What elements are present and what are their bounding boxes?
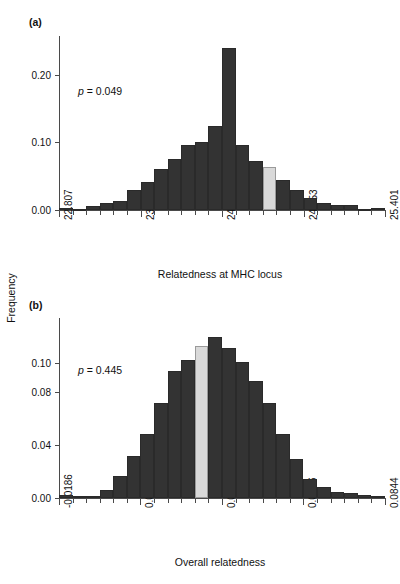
histogram-bar <box>168 371 181 498</box>
x-axis-minor-tick <box>195 499 196 503</box>
x-axis-tick <box>304 211 305 217</box>
x-axis-minor-tick <box>344 211 345 215</box>
histogram-bar <box>59 208 73 210</box>
y-axis-tick <box>55 445 59 446</box>
histogram-bar <box>304 198 317 210</box>
x-axis-minor-tick <box>181 211 182 215</box>
x-axis-minor-tick <box>276 211 277 215</box>
histogram-bar <box>154 403 168 498</box>
x-axis-minor-tick <box>127 211 128 215</box>
x-axis-minor-tick <box>331 499 332 503</box>
histogram-bar <box>73 209 86 211</box>
x-axis-minor-tick <box>100 211 101 215</box>
histogram-bar <box>358 495 371 498</box>
histogram-bar <box>249 161 263 210</box>
histogram-bar <box>181 145 195 210</box>
x-axis-minor-tick <box>371 499 372 503</box>
histogram-bar <box>168 159 181 210</box>
y-axis-line <box>59 318 60 498</box>
histogram-bar <box>140 434 154 498</box>
x-axis-tick <box>222 211 223 217</box>
histogram-bar-observed <box>263 167 276 210</box>
panel-a-plot-area: 0.000.100.2022.80723.45624.10424.75325.4… <box>0 0 396 292</box>
histogram-bar <box>113 201 127 210</box>
x-axis-minor-tick <box>290 499 291 503</box>
histogram-bar <box>263 403 276 498</box>
x-axis-tick-label: 0.0844 <box>389 477 400 508</box>
y-axis-tick-label: 0.08 <box>13 387 51 398</box>
x-axis-minor-tick <box>290 211 291 215</box>
x-axis-tick-label: 22.807 <box>63 189 74 220</box>
x-axis-minor-tick <box>168 499 169 503</box>
y-axis-tick <box>55 392 59 393</box>
histogram-bar <box>222 348 236 498</box>
y-axis-tick <box>55 75 59 76</box>
x-axis-minor-tick <box>331 211 332 215</box>
y-axis-tick-label: 0.10 <box>13 358 51 369</box>
x-axis-minor-tick <box>263 211 264 215</box>
histogram-bar <box>290 190 304 210</box>
x-axis-tick <box>140 499 141 505</box>
x-axis-tick-label: 25.401 <box>389 189 400 220</box>
x-axis-minor-tick <box>100 499 101 503</box>
histogram-bar <box>195 142 208 210</box>
histogram-bar <box>100 203 113 210</box>
x-axis-minor-tick <box>249 211 250 215</box>
y-axis-tick <box>55 142 59 143</box>
histogram-bar <box>331 492 344 498</box>
histogram-bar <box>249 381 263 498</box>
panel-b-x-axis-title: Overall relatedness <box>60 556 380 568</box>
x-axis-minor-tick <box>86 211 87 215</box>
histogram-bar <box>208 337 222 498</box>
histogram-bar <box>317 203 331 210</box>
histogram-bar <box>344 205 358 210</box>
histogram-bar <box>236 362 249 498</box>
x-axis-minor-tick <box>113 211 114 215</box>
x-axis-minor-tick <box>168 211 169 215</box>
histogram-bar <box>113 476 127 498</box>
histogram-bar <box>208 126 222 210</box>
y-axis-tick-label: 0.20 <box>13 70 51 81</box>
y-axis-tick-label: 0.04 <box>13 440 51 451</box>
histogram-bar <box>154 169 168 210</box>
histogram-bar <box>59 495 73 498</box>
histogram-bar <box>317 487 331 498</box>
y-axis-tick-label: 0.10 <box>13 137 51 148</box>
histogram-bar <box>86 496 100 498</box>
histogram-bar <box>127 456 140 498</box>
histogram-bar <box>371 208 385 210</box>
histogram-bar <box>181 360 195 498</box>
histogram-bar <box>127 190 141 210</box>
panel-a: (a) p = 0.049 0.000.100.2022.80723.45624… <box>0 0 396 292</box>
histogram-bar <box>86 206 100 210</box>
x-axis-minor-tick <box>208 499 209 503</box>
histogram-bar <box>344 493 358 498</box>
x-axis-minor-tick <box>208 211 209 215</box>
x-axis-minor-tick <box>181 499 182 503</box>
y-axis-tick-label: 0.00 <box>13 493 51 504</box>
x-axis-minor-tick <box>195 211 196 215</box>
histogram-bar <box>371 496 385 498</box>
x-axis-tick <box>141 211 142 217</box>
x-axis-minor-tick <box>344 499 345 503</box>
histogram-bar <box>276 434 290 498</box>
x-axis-tick-label: -0.0186 <box>63 474 74 508</box>
x-axis-tick <box>385 499 386 505</box>
histogram-bar <box>73 496 86 498</box>
histogram-bar <box>276 180 290 210</box>
panel-b-plot-area: 0.000.040.080.10-0.01860.00710.03290.058… <box>0 290 396 584</box>
histogram-bar <box>222 48 236 210</box>
histogram-bar <box>303 479 317 498</box>
x-axis-minor-tick <box>113 499 114 503</box>
x-axis-minor-tick <box>86 499 87 503</box>
x-axis-tick <box>59 211 60 217</box>
x-axis-minor-tick <box>358 211 359 215</box>
x-axis-minor-tick <box>371 211 372 215</box>
y-axis-line <box>59 36 60 210</box>
histogram-bar-observed <box>195 346 208 498</box>
x-axis-minor-tick <box>276 499 277 503</box>
x-axis-minor-tick <box>249 499 250 503</box>
x-axis-tick <box>385 211 386 217</box>
x-axis-tick <box>303 499 304 505</box>
